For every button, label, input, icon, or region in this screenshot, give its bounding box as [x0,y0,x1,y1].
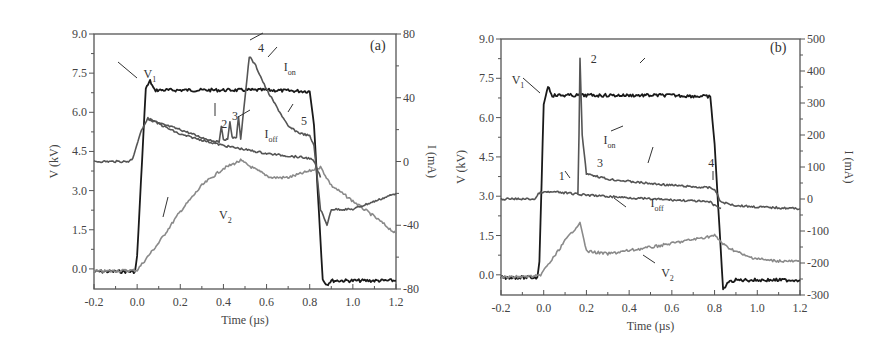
annotation: 2 [221,117,227,131]
y-right-tick-label: -100 [807,224,829,238]
annotation: V1 [512,73,525,90]
annotation-leader [565,171,570,178]
y-right-tick-label: 300 [807,96,825,110]
annotation-leader [643,255,655,263]
y-tick-label: 3.0 [72,184,87,198]
annotation-leader [611,126,623,131]
y-right-tick-label: 100 [807,160,825,174]
y-tick-label: 3.0 [479,189,494,203]
y-right-tick-label: 40 [403,91,415,105]
annotation: V2 [661,266,674,283]
y-right-tick-label: -300 [807,288,829,302]
y-tick-label: 1.5 [72,223,87,237]
annotation: V2 [219,208,232,225]
annotation-leader [268,47,277,57]
annotation: 4 [708,156,714,170]
x-tick-label: 0.8 [302,295,317,309]
x-tick-label: 0.2 [579,301,594,315]
series-i-on [501,58,800,209]
x-tick-label: 1.2 [389,295,404,309]
y-tick-label: 1.5 [479,229,494,243]
y-right-tick-label: 200 [807,128,825,142]
y-right-tick-label: -80 [403,282,419,296]
annotation-leader [163,197,168,217]
panel-label: (a) [370,38,386,54]
series-v1 [94,80,396,285]
x-tick-label: 0.2 [173,295,188,309]
annotation-leader [288,104,293,112]
x-axis-label: Time (µs) [627,319,674,333]
annotation: 5 [301,114,307,128]
annotation: 3 [232,109,238,123]
y-right-tick-label: 0 [403,155,409,169]
y-tick-label: 6.0 [72,105,87,119]
x-tick-label: 0.6 [259,295,274,309]
x-tick-label: 1.0 [750,301,765,315]
y-tick-label: 4.5 [479,150,494,164]
x-tick-label: 0.0 [536,301,551,315]
annotation-leader [640,58,645,63]
y-right-tick-label: 500 [807,32,825,46]
series-v2 [501,222,800,278]
figure: -0.20.00.20.40.60.81.01.20.01.53.04.56.0… [0,0,887,350]
y-tick-label: 9.0 [479,32,494,46]
y-tick-label: 0.0 [72,262,87,276]
x-axis-label: Time (µs) [221,313,268,327]
x-tick-label: 0.4 [622,301,637,315]
annotation-leader [118,62,137,78]
x-tick-label: -0.2 [85,295,104,309]
y-right-tick-label: -40 [403,218,419,232]
x-tick-label: 0.6 [664,301,679,315]
annotation-leader [523,78,540,93]
annotation: Ion [604,133,616,150]
annotation: 3 [597,156,603,170]
x-tick-label: 0.4 [216,295,231,309]
series-i-off [578,194,721,209]
y-tick-label: 7.5 [479,71,494,85]
x-tick-label: 1.0 [345,295,360,309]
annotation: 2 [591,52,597,66]
y-tick-label: 4.5 [72,144,87,158]
y-tick-label: 6.0 [479,111,494,125]
y-tick-label: 0.0 [479,268,494,282]
plot-frame [501,39,800,295]
panel-label: (b) [770,40,787,56]
x-tick-label: -0.2 [492,301,511,315]
chart-panel-a: -0.20.00.20.40.60.81.01.20.01.53.04.56.0… [47,27,439,327]
y-axis-label: V (kV) [454,150,468,184]
y-right-tick-label: 0 [807,192,813,206]
annotation: Ion [284,60,296,77]
x-tick-label: 0.8 [707,301,722,315]
y-axis-label: V (kV) [47,144,61,178]
y-right-axis-label: I (mA) [842,151,856,184]
y-tick-label: 9.0 [72,27,87,41]
annotation: 4 [258,41,264,55]
annotation-leader [648,147,653,163]
y-tick-label: 7.5 [72,66,87,80]
annotation: 1 [559,169,565,183]
chart-panel-b: -0.20.00.20.40.60.81.01.20.01.53.04.56.0… [454,32,856,333]
y-right-tick-label: 80 [403,27,415,41]
x-tick-label: 1.2 [793,301,808,315]
annotation: Ioff [264,127,278,144]
y-right-tick-label: -200 [807,256,829,270]
y-right-tick-label: 400 [807,64,825,78]
y-right-axis-label: I (mA) [425,145,439,178]
x-tick-label: 0.0 [130,295,145,309]
annotation-leader [614,198,626,207]
